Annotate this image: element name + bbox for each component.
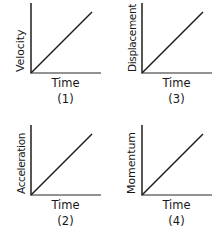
panel-caption-4: (4) — [141, 214, 212, 228]
plot-area-4 — [141, 125, 212, 196]
graph-panel-1: Velocity Time (1) — [0, 0, 111, 122]
plot-area-3 — [141, 3, 212, 74]
y-axis-label-1: Velocity — [14, 1, 28, 72]
panel-caption-3: (3) — [141, 92, 212, 106]
x-axis-label-4: Time — [141, 198, 212, 212]
x-axis-label-1: Time — [30, 76, 101, 90]
data-line — [31, 134, 92, 195]
graph-panel-3: Displacement Time (3) — [111, 0, 222, 122]
y-axis-label-4: Momentum — [125, 123, 139, 194]
plot-area-1 — [30, 3, 101, 74]
x-axis-label-3: Time — [141, 76, 212, 90]
data-line — [142, 134, 203, 195]
graph-panel-2: Acceleration Time (2) — [0, 122, 111, 244]
graph-panel-4: Momentum Time (4) — [111, 122, 222, 244]
x-axis-label-2: Time — [30, 198, 101, 212]
y-axis-label-2: Acceleration — [14, 123, 28, 194]
y-axis-label-3: Displacement — [125, 1, 139, 72]
data-line — [142, 12, 203, 73]
panel-caption-2: (2) — [30, 214, 101, 228]
panel-caption-1: (1) — [30, 92, 101, 106]
plot-area-2 — [30, 125, 101, 196]
graph-grid: Velocity Time (1) Displacement Time (3) … — [0, 0, 222, 244]
data-line — [31, 12, 92, 73]
